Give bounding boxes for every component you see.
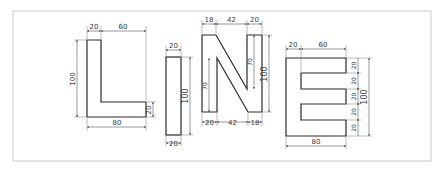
n-dim-bottom-middle: 42	[228, 119, 237, 127]
letter-i-outline	[166, 57, 181, 135]
e-dim-stem-width: 20	[289, 41, 298, 49]
e-dim-segment-3: 20	[350, 93, 357, 101]
e-dim-segment-1: 20	[350, 62, 357, 70]
letter-n-outline	[202, 35, 262, 112]
letter-n: 18 42 20 70 70 100 20 42 18	[201, 16, 272, 127]
n-dim-inner-left-height: 70	[201, 82, 208, 90]
n-dim-top-left: 18	[205, 16, 214, 24]
n-dim-bottom-left: 20	[205, 119, 214, 127]
e-dim-segment-4: 20	[350, 108, 357, 116]
l-dim-height: 100	[69, 72, 77, 85]
letter-e: 20 60 20 20 20 20 20 100 80	[286, 41, 372, 149]
line-letters-drawing: 20 60 100 20 80 20 20 100	[0, 0, 446, 171]
letter-e-outline	[286, 58, 346, 136]
e-dim-segment-2: 20	[350, 77, 357, 85]
i-dim-top-width: 20	[169, 42, 178, 50]
l-dim-foot-height: 20	[145, 106, 153, 115]
e-dim-base-width: 80	[312, 138, 321, 146]
i-dim-height: 100	[181, 88, 190, 103]
i-dim-bottom-width: 20	[169, 140, 178, 148]
letter-l: 20 60 100 20 80	[69, 23, 156, 131]
l-dim-base-width: 80	[113, 119, 122, 127]
l-dim-top-gap: 60	[119, 23, 128, 31]
letter-l-outline	[87, 40, 146, 117]
n-dim-top-right: 20	[250, 16, 259, 24]
n-dim-top-middle: 42	[227, 16, 236, 24]
letter-i: 20 20 100	[166, 42, 193, 148]
n-dim-height: 100	[260, 66, 269, 81]
e-dim-segment-5: 20	[350, 124, 357, 132]
e-dim-arm-length: 60	[319, 41, 328, 49]
n-dim-bottom-right: 18	[251, 119, 260, 127]
n-dim-inner-right-height: 70	[246, 58, 253, 66]
e-dim-height: 100	[360, 89, 369, 104]
l-dim-stem-width: 20	[90, 23, 99, 31]
